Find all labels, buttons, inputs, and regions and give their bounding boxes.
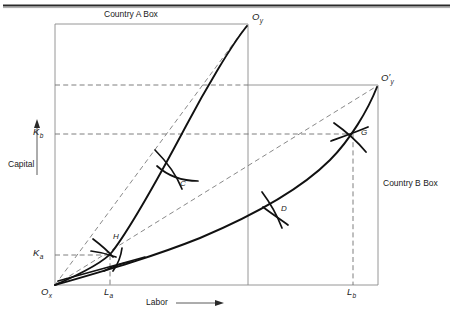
tick-ka-subscript: a	[40, 253, 44, 260]
origin-oy-subscript: y	[260, 17, 263, 24]
tick-lb-letter: L	[347, 286, 352, 297]
origin-ox-subscript: x	[49, 292, 52, 299]
point-g-label: G	[361, 129, 367, 137]
diagonal-ox-to-oyprime	[55, 86, 377, 285]
tick-ka-letter: K	[33, 247, 39, 258]
point-c-label: C	[180, 180, 186, 188]
origin-oy-prime-subscript: y	[390, 78, 393, 85]
isoquant-d-1	[262, 192, 282, 228]
dashed-diagonals	[55, 25, 377, 285]
diagonal-ox-to-oy	[55, 25, 247, 285]
isoquant-c-1	[155, 150, 182, 189]
tick-la-label: La	[104, 287, 113, 297]
country-a-box-title: Country A Box	[104, 10, 158, 19]
point-h-label: H	[113, 233, 119, 241]
point-c-isoquant-cross	[155, 150, 198, 189]
tick-la-letter: L	[104, 286, 109, 297]
tick-la-subscript: a	[110, 292, 114, 299]
tick-ka-label: Ka	[33, 248, 43, 258]
point-d-label: D	[281, 205, 287, 213]
country-b-box-title: Country B Box	[383, 179, 438, 188]
capital-axis-label: Capital	[8, 160, 34, 169]
tick-lb-subscript: b	[353, 292, 357, 299]
origin-ox-letter: O	[41, 286, 48, 297]
tick-kb-letter: K	[33, 126, 39, 137]
edgeworth-box-diagram	[0, 0, 453, 316]
origin-ox-label: Ox	[41, 287, 52, 297]
dashed-guides	[55, 85, 353, 285]
labor-axis-arrow	[176, 300, 224, 306]
labor-axis-label: Labor	[146, 298, 168, 307]
figure-canvas: Country A Box Country B Box Capital Labo…	[0, 0, 453, 316]
tick-kb-subscript: b	[40, 132, 44, 139]
origin-oy-prime-label: O′y	[381, 73, 393, 83]
tick-lb-label: Lb	[347, 287, 356, 297]
tick-kb-label: Kb	[33, 127, 43, 137]
country-b-box-rect	[248, 85, 378, 285]
origin-oy-label: Oy	[252, 12, 263, 22]
origin-oy-letter: O	[252, 11, 259, 22]
